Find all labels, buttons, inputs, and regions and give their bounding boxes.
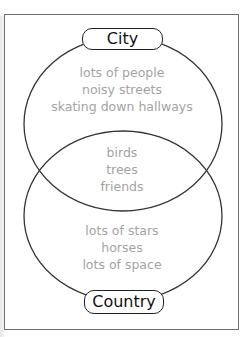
city-label: City — [82, 28, 163, 50]
list-item: skating down hallways — [0, 98, 244, 115]
city-only-items: lots of people noisy streets skating dow… — [0, 64, 244, 115]
country-label-text: Country — [92, 292, 156, 311]
list-item: lots of space — [0, 256, 244, 273]
country-label: Country — [84, 290, 164, 314]
list-item: lots of people — [0, 64, 244, 81]
list-item: friends — [0, 178, 244, 195]
shared-items: birds trees friends — [0, 144, 244, 195]
city-label-text: City — [107, 29, 138, 48]
list-item: birds — [0, 144, 244, 161]
list-item: noisy streets — [0, 81, 244, 98]
country-only-items: lots of stars horses lots of space — [0, 222, 244, 273]
list-item: lots of stars — [0, 222, 244, 239]
list-item: trees — [0, 161, 244, 178]
list-item: horses — [0, 239, 244, 256]
